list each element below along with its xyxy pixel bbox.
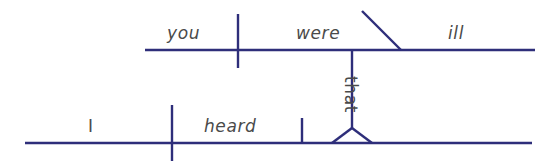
word-connector-that: that xyxy=(342,76,359,113)
predicate-adjective-slant xyxy=(362,11,401,50)
sentence-diagram: you were ill I heard that xyxy=(0,0,546,167)
word-subordinate-verb: were xyxy=(296,25,340,42)
word-subordinate-subject: you xyxy=(167,25,200,42)
word-main-subject: I xyxy=(88,118,94,135)
word-main-verb: heard xyxy=(204,118,256,135)
connector-stand-right-leg xyxy=(352,128,372,143)
main-clause-strokes xyxy=(25,105,532,161)
word-predicate-adjective: ill xyxy=(448,25,464,42)
diagram-strokes xyxy=(0,0,546,167)
connector-stand-left-leg xyxy=(332,128,352,143)
